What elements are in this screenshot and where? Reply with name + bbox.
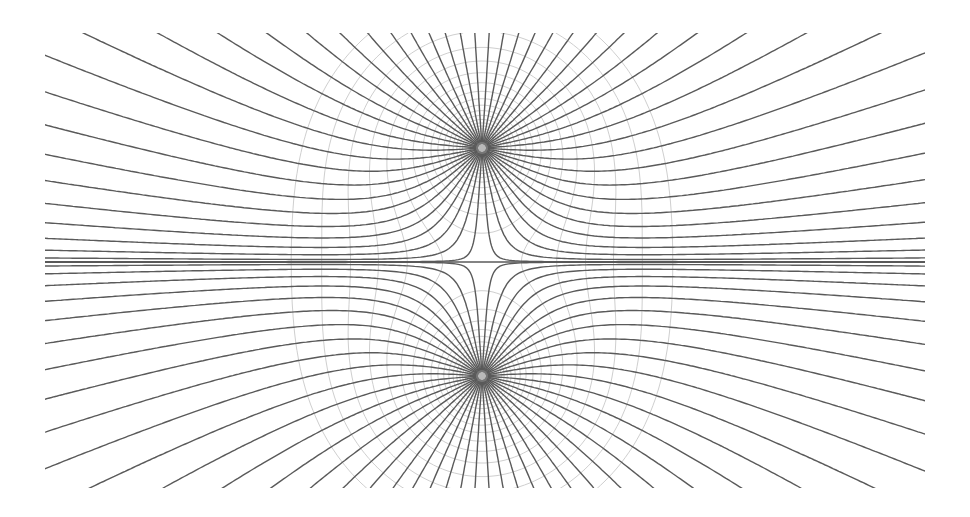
field-line <box>427 29 480 145</box>
field-line <box>486 377 749 493</box>
field-line <box>486 28 890 150</box>
field-line <box>485 378 625 493</box>
field-line <box>486 51 931 160</box>
equipotential-curve <box>291 33 673 489</box>
field-line <box>338 378 478 493</box>
field-diagram <box>0 0 970 517</box>
field-line <box>39 53 478 159</box>
field-line <box>74 28 478 150</box>
field-line <box>484 286 930 373</box>
point-charge-upper <box>476 142 488 154</box>
field-line <box>40 152 482 260</box>
field-line <box>41 152 481 262</box>
field-line <box>155 376 478 492</box>
field-line <box>486 376 809 492</box>
field-line <box>39 365 478 471</box>
equipotential-curves <box>291 33 673 489</box>
field-line <box>215 377 478 493</box>
field-line <box>41 262 481 372</box>
field-lines <box>39 27 932 493</box>
point-charge-lower <box>476 370 488 382</box>
field-line <box>40 265 482 373</box>
field-line <box>484 151 930 238</box>
field-line <box>484 29 537 145</box>
field-line <box>486 365 931 474</box>
field-plot <box>0 0 970 517</box>
field-line <box>486 28 754 147</box>
field-line <box>210 28 478 147</box>
